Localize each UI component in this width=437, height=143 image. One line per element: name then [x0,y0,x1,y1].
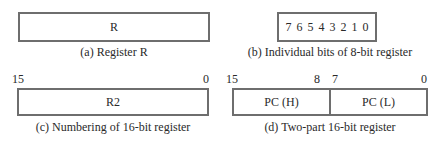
bit-7: 7 [286,20,292,35]
bit-6: 6 [297,20,303,35]
caption-d: (d) Two-part 16-bit register [232,120,428,135]
index-15-c: 15 [12,73,24,85]
bit-5: 5 [308,20,314,35]
register-r-box: R [18,12,210,42]
bit-1: 1 [352,20,358,35]
bit-0: 0 [363,20,369,35]
bit-list: 7 6 5 4 3 2 1 0 [286,20,369,35]
bit-3: 3 [330,20,336,35]
caption-c: (c) Numbering of 16-bit register [17,120,209,135]
bit-4: 4 [319,20,325,35]
pc-register-box: PC (H) PC (L) [232,88,428,116]
register-r2-box: R2 [17,88,209,116]
pc-high-label: PC (H) [264,95,298,110]
pc-high-cell: PC (H) [234,90,329,114]
index-15-d: 15 [226,73,238,85]
eight-bit-register-box: 7 6 5 4 3 2 1 0 [277,12,377,42]
register-r-label: R [110,20,118,35]
index-0-c: 0 [203,73,209,85]
pc-low-label: PC (L) [362,95,395,110]
caption-b: (b) Individual bits of 8-bit register [240,45,420,60]
index-8-d: 8 [314,73,320,85]
index-7-d: 7 [332,73,338,85]
index-0-d: 0 [421,73,427,85]
caption-a: (a) Register R [18,45,210,60]
register-r2-label: R2 [106,95,120,110]
pc-low-cell: PC (L) [331,90,426,114]
bit-2: 2 [341,20,347,35]
